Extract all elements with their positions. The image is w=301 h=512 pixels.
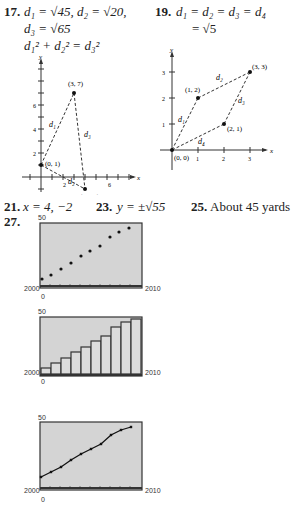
problem-17-line3: d₁² + d₂² = d₃² (24, 38, 99, 54)
point-label-3-3: (3, 3) (252, 63, 268, 71)
point-label-4-neg1: (4, −1) (80, 193, 100, 195)
chart2-ymax-label: 50 (38, 308, 46, 315)
y-tick-6: 6 (33, 103, 36, 109)
problem-19-graph: y x 1 2 3 1 2 3 (0, 0) (1, 2) (3, 3) (2,… (150, 40, 301, 200)
problem-19-number: 19. (155, 4, 171, 20)
chart3-line (39, 421, 144, 493)
chart3-ymin-label: 0 (41, 496, 45, 503)
chart1-frame (39, 222, 144, 290)
chart3-xmax-label: 2010 (145, 487, 161, 494)
x-tick-2: 2 (222, 156, 225, 162)
x-tick-6: 6 (108, 182, 111, 188)
chart2-xmin-label: 2000 (24, 369, 40, 376)
segment-d1: d₁ (49, 120, 56, 129)
x-tick-3: 3 (248, 156, 251, 162)
y-tick-4: 4 (33, 127, 36, 133)
point-label-0-1: (0, 1) (45, 160, 61, 168)
point-label-1-2: (1, 2) (185, 86, 201, 94)
point-label-0-0: (0, 0) (174, 154, 190, 162)
y-tick-3: 3 (162, 70, 165, 76)
segment-d3: d₃ (84, 130, 91, 139)
problem-25-answer: About 45 yards (210, 199, 290, 215)
problem-21-answer: x = 4, −2 (23, 199, 72, 215)
segment-d2: d₂ (216, 73, 223, 82)
segment-d4: d₄ (198, 137, 205, 146)
point-1-2 (196, 96, 200, 100)
problem-17-number: 17. (4, 4, 20, 20)
segment-d1: d₁ (178, 115, 185, 124)
segment-d2: d₂ (68, 177, 75, 186)
point-4-neg1 (83, 187, 87, 191)
x-axis-label: x (269, 147, 274, 155)
y-tick-1: 1 (162, 122, 165, 128)
problem-19-line2: = √5 (192, 21, 216, 37)
point-label-2-1: (2, 1) (227, 125, 243, 133)
chart1-xmin-label: 2000 (24, 285, 40, 292)
point-0-1 (39, 163, 43, 167)
point-label-3-7: (3, 7) (68, 80, 84, 88)
problem-17-line1: d₁ = √45, d₂ = √20, (24, 4, 127, 20)
chart1-ymin-label: 0 (41, 293, 45, 300)
problem-25-number: 25. (191, 199, 207, 215)
chart2-xmax-label: 2010 (145, 369, 161, 376)
point-2-1 (222, 122, 226, 126)
segment-d3: d₃ (238, 96, 245, 105)
y-tick-2: 2 (162, 96, 165, 102)
chart3-xmin-label: 2000 (24, 487, 40, 494)
problem-17-graph: y x 2 4 6 2 6 (3, 7) (0, 1) (4, −1) d₁ (0, 55, 150, 195)
chart1-ymax-label: 50 (38, 214, 46, 221)
problem-27-number: 27. (4, 214, 20, 230)
chart2-ymin-label: 0 (41, 378, 45, 385)
problem-21-number: 21. (4, 199, 20, 215)
x-tick-1: 1 (196, 156, 199, 162)
y-tick-2: 2 (33, 151, 36, 157)
x-axis-label: x (136, 174, 141, 182)
point-3-7 (72, 91, 76, 95)
y-axis-label: y (169, 46, 174, 54)
problem-23-number: 23. (96, 199, 112, 215)
problem-17-line2: d₃ = √65 (24, 21, 70, 37)
x-tick-2: 2 (63, 182, 66, 188)
problem-19-line1: d₁ = d₂ = d₃ = d₄ (176, 4, 266, 20)
chart3-ymax-label: 50 (38, 414, 46, 421)
chart2-bar (39, 316, 144, 378)
y-axis-label: y (38, 55, 43, 61)
chart1-xmax-label: 2010 (145, 285, 161, 292)
problem-23-answer: y = ±√55 (117, 199, 165, 215)
point-0-0 (170, 148, 174, 152)
